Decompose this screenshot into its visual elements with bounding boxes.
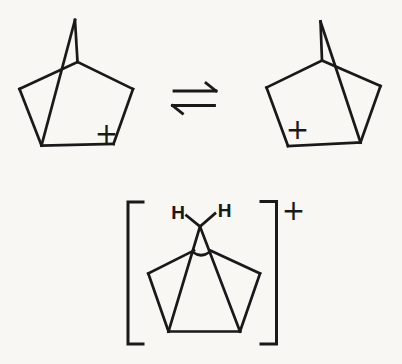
- bond-line: [20, 89, 42, 146]
- plus-charge-right-structure: +: [286, 113, 309, 146]
- norbornyl-cation-equilibrium-diagram: + + + H H: [0, 0, 402, 364]
- right-bracket: [261, 202, 277, 345]
- bridged-nonclassical-cation-skeleton: [148, 214, 260, 332]
- plus-charge-left-structure: +: [95, 117, 118, 150]
- bracket-stroke: [128, 202, 143, 344]
- bond-line: [267, 61, 323, 88]
- bond-line: [148, 274, 168, 332]
- bond-line: [361, 86, 381, 143]
- bond-line: [267, 88, 289, 147]
- plus-charge-bracket-superscript: +: [282, 194, 305, 227]
- bond-line: [78, 62, 134, 89]
- bond-line: [75, 20, 78, 62]
- bond-line: [187, 216, 201, 227]
- bond-lines-root: [20, 20, 381, 344]
- bond-line: [240, 274, 260, 332]
- equilibrium-arrow: [173, 83, 217, 114]
- bracket-stroke: [261, 202, 277, 345]
- left-bracket: [128, 202, 143, 344]
- bond-line: [200, 227, 240, 332]
- bond-line: [20, 62, 78, 89]
- bond-line: [321, 22, 361, 143]
- bond-line: [200, 214, 215, 227]
- three-center-bond-curve: [193, 252, 210, 255]
- hydrogen-label-right: H: [218, 200, 232, 221]
- right-classical-cation-skeleton: [267, 22, 381, 147]
- bond-line: [322, 61, 381, 87]
- hydrogen-label-left: H: [171, 202, 185, 223]
- bond-line: [42, 20, 76, 146]
- bond-line: [169, 227, 201, 332]
- scanned-page: + + + H H: [0, 0, 402, 364]
